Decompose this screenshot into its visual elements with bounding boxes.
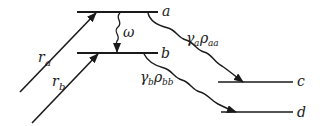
- level-a-label: a: [162, 3, 170, 19]
- coupling-omega-arrow: [116, 13, 120, 52]
- svg-text:aa: aa: [208, 38, 219, 48]
- pump-rb-label: r b: [52, 73, 65, 92]
- level-c-label: c: [297, 73, 305, 89]
- svg-text:b: b: [59, 81, 65, 92]
- decay-b-label: γ b ρ bb: [140, 69, 174, 87]
- level-d-label: d: [297, 104, 306, 120]
- omega-label: ω: [123, 24, 135, 40]
- svg-text:a: a: [45, 57, 51, 68]
- level-b-label: b: [161, 45, 170, 61]
- decay-a-label: γ a ρ aa: [186, 30, 219, 48]
- svg-text:a: a: [194, 38, 199, 48]
- pump-ra-label: r a: [38, 49, 51, 68]
- level-diagram: a b c d ω r a r b γ a ρ aa γ b ρ bb: [0, 0, 320, 126]
- svg-text:bb: bb: [162, 77, 174, 87]
